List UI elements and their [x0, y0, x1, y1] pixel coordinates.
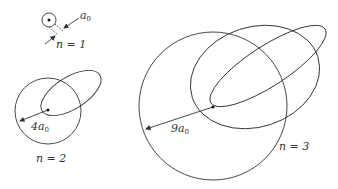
- radius-label-n1: a0: [80, 9, 91, 23]
- orbit-n2: [15, 61, 108, 144]
- orbit-n3: [139, 9, 336, 180]
- radius-symbol: 4a: [31, 120, 45, 133]
- n-label-3: n = 3: [279, 140, 309, 153]
- n-label-1: n = 1: [56, 38, 86, 51]
- n-label-text: n = 1: [56, 38, 86, 51]
- radius-subscript: 0: [87, 15, 91, 23]
- radius-label-n3: 9a0: [171, 122, 189, 136]
- n-label-text: n = 3: [279, 140, 309, 153]
- radius-label-n2: 4a0: [31, 120, 49, 134]
- radius-subscript: 0: [185, 128, 189, 136]
- n-label-2: n = 2: [36, 152, 66, 165]
- n-label-text: n = 2: [36, 152, 66, 165]
- radius-symbol: 9a: [171, 122, 185, 135]
- radius-subscript: 0: [45, 126, 49, 134]
